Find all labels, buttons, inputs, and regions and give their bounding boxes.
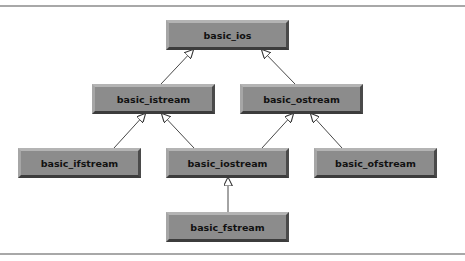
node-label: basic_ostream [263, 94, 340, 105]
node-basic-ostream: basic_ostream [240, 84, 363, 114]
node-label: basic_ifstream [41, 158, 119, 169]
node-basic-ofstream: basic_ofstream [314, 148, 437, 178]
edge-ifstream-to-istream [114, 114, 145, 148]
edge-ofstream-to-ostream [311, 114, 342, 148]
edge-ostream-to-ios [262, 50, 295, 84]
node-basic-fstream: basic_fstream [166, 212, 289, 242]
node-basic-iostream: basic_iostream [166, 148, 289, 178]
node-label: basic_istream [117, 94, 190, 105]
node-label: basic_iostream [188, 158, 268, 169]
edge-istream-to-ios [161, 50, 193, 84]
node-label: basic_ios [204, 30, 252, 41]
node-basic-istream: basic_istream [92, 84, 215, 114]
edge-iostream-to-istream [162, 114, 194, 148]
edge-iostream-to-ostream [262, 114, 293, 148]
bottom-rule [0, 253, 465, 255]
node-basic-ifstream: basic_ifstream [18, 148, 141, 178]
node-basic-ios: basic_ios [166, 20, 289, 50]
node-label: basic_ofstream [335, 158, 416, 169]
node-label: basic_fstream [190, 222, 264, 233]
